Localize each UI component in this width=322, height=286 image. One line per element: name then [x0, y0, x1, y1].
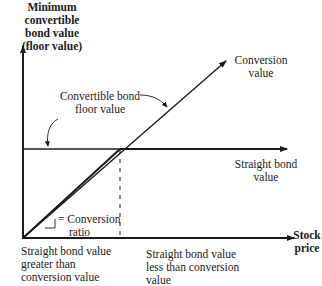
floor-callout-arrow-left	[47, 119, 58, 146]
slope-label-line1: = Conversion	[58, 213, 128, 226]
right-region-label-line3: value	[146, 274, 276, 286]
slope-label-line2: ratio	[58, 226, 128, 239]
conversion-value-label-line2: value	[226, 67, 296, 80]
right-region-label-line1: Straight bond value	[146, 248, 276, 261]
conversion-value-label-line1: Conversion	[226, 54, 296, 67]
y-axis-label: Minimum convertible bond value (floor va…	[0, 1, 104, 53]
slope-label: = Conversion ratio	[58, 213, 128, 239]
x-axis-label-line1: Stock	[290, 229, 322, 242]
straight-bond-label-line1: Straight bond	[226, 158, 306, 171]
straight-bond-label: Straight bond value	[226, 158, 306, 184]
right-region-label-line2: less than conversion	[146, 261, 276, 274]
left-region-label-line3: conversion value	[21, 271, 141, 284]
right-region-label: Straight bond value less than conversion…	[146, 248, 276, 286]
floor-value-label-line2: floor value	[54, 103, 146, 116]
floor-value-label-line1: Convertible bond	[54, 90, 146, 103]
x-axis-label-line2: price	[290, 242, 322, 255]
y-axis-label-line2: bond value	[0, 27, 104, 40]
x-axis-label: Stock price	[290, 229, 322, 255]
left-region-label: Straight bond value greater than convers…	[21, 245, 141, 284]
y-axis-label-line3: (floor value)	[0, 40, 104, 53]
straight-bond-label-line2: value	[226, 171, 306, 184]
left-region-label-line1: Straight bond value	[21, 245, 141, 258]
floor-value-label: Convertible bond floor value	[54, 90, 146, 116]
conversion-value-label: Conversion value	[226, 54, 296, 80]
left-region-label-line2: greater than	[21, 258, 141, 271]
slope-triangle	[45, 219, 55, 228]
y-axis-label-line1: Minimum convertible	[0, 1, 104, 27]
